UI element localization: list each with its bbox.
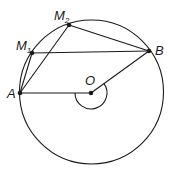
- label-M1: M1: [16, 38, 31, 55]
- segment-OB: [91, 51, 149, 93]
- geometry-diagram: A O B M1 M2: [0, 0, 172, 171]
- diagram-svg: A O B M1 M2: [0, 0, 172, 171]
- point-A: [18, 91, 23, 96]
- segment-M2B: [69, 25, 149, 51]
- label-M2: M2: [54, 8, 70, 25]
- point-B: [147, 49, 152, 54]
- label-O: O: [85, 73, 95, 88]
- label-A: A: [6, 86, 16, 101]
- label-B: B: [155, 43, 164, 58]
- point-O: [89, 91, 94, 96]
